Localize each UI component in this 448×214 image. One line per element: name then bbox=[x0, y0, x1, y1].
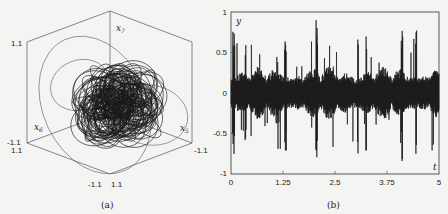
tick-x6-max: 1.1 bbox=[11, 146, 23, 155]
attractor-trajectory bbox=[17, 18, 192, 192]
x-tick-3.75: 3.75 bbox=[379, 178, 395, 187]
y-axis-label: y bbox=[235, 16, 242, 26]
caption-b: (b) bbox=[327, 200, 340, 210]
t-axis-label: t bbox=[433, 162, 437, 172]
tick-x5-min: -1.1 bbox=[194, 146, 208, 155]
tick-x5-max: 1.1 bbox=[111, 180, 123, 189]
y-time-series bbox=[231, 20, 439, 161]
y-tick-1: 1 bbox=[223, 8, 228, 17]
x-tick-2.5: 2.5 bbox=[329, 178, 341, 187]
caption-a: (a) bbox=[101, 200, 113, 210]
x6-axis-label: x6 bbox=[34, 122, 43, 133]
figure: x7 x6 x5 1.1 -1.1 1.1 -1.1 1.1 -1.1 (a) … bbox=[0, 0, 448, 214]
x-tick-1.25: 1.25 bbox=[275, 178, 291, 187]
y-tick-neg0.5: -0.5 bbox=[213, 129, 227, 138]
y-tick-0: 0 bbox=[223, 89, 228, 98]
panel-b-ticks bbox=[231, 53, 387, 175]
x-tick-0: 0 bbox=[229, 178, 234, 187]
y-tick-neg1: -1 bbox=[220, 169, 228, 178]
x5-axis-label: x5 bbox=[180, 123, 189, 134]
y-tick-0.5: 0.5 bbox=[216, 48, 228, 57]
x7-axis-label: x7 bbox=[116, 23, 125, 34]
tick-x7-max: 1.1 bbox=[11, 39, 23, 48]
x-tick-5: 5 bbox=[437, 178, 442, 187]
tick-x6-min: -1.1 bbox=[88, 180, 102, 189]
